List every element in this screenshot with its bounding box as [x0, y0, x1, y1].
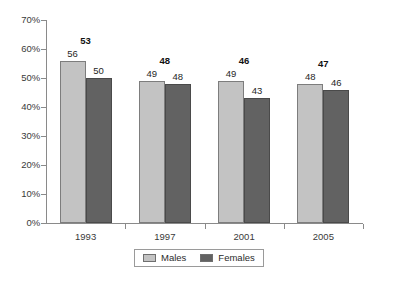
x-axis-label-2001: 2001: [205, 231, 284, 242]
group-total-label-2001: 46: [208, 56, 280, 66]
x-axis-label-1997: 1997: [125, 231, 204, 242]
x-axis-separator-tick: [284, 224, 285, 229]
legend-entry-males: Males: [143, 253, 186, 263]
y-axis-tick-label: 20%: [2, 160, 40, 170]
y-axis-tick-label: 0%: [2, 218, 40, 228]
plot-area: [46, 20, 363, 223]
bar-value-label-males-2001: 49: [213, 69, 249, 79]
legend-swatch-icon-males: [143, 254, 156, 262]
bar-males-2005: [297, 84, 323, 223]
bar-value-label-females-2005: 46: [318, 78, 354, 88]
bar-value-label-males-1993: 56: [55, 49, 91, 59]
y-axis-tick-label: 70%: [2, 15, 40, 25]
x-axis-label-2005: 2005: [284, 231, 363, 242]
y-axis-tick-label: 30%: [2, 131, 40, 141]
x-axis-separator-tick: [363, 224, 364, 229]
y-axis-tick-label: 10%: [2, 189, 40, 199]
x-axis-label-1993: 1993: [46, 231, 125, 242]
legend-label-females: Females: [218, 253, 254, 263]
bar-chart: 0%10%20%30%40%50%60%70% 1993199720012005…: [0, 0, 395, 283]
legend-label-males: Males: [161, 253, 186, 263]
y-axis-tick-label: 60%: [2, 44, 40, 54]
chart-legend: Males Females: [134, 249, 264, 267]
bar-females-2005: [323, 90, 349, 223]
bar-value-label-females-1993: 50: [81, 66, 117, 76]
group-total-label-1997: 48: [129, 56, 201, 66]
bar-females-1997: [165, 84, 191, 223]
group-total-label-1993: 53: [50, 36, 122, 46]
x-axis-separator-tick: [205, 224, 206, 229]
bar-males-1997: [139, 81, 165, 223]
legend-swatch-icon-females: [200, 254, 213, 262]
legend-entry-females: Females: [200, 253, 254, 263]
group-total-label-2005: 47: [287, 59, 359, 69]
bar-females-2001: [244, 98, 270, 223]
bar-value-label-females-2001: 43: [239, 86, 275, 96]
bar-value-label-females-1997: 48: [160, 72, 196, 82]
y-axis-tick-label: 50%: [2, 73, 40, 83]
bar-females-1993: [86, 78, 112, 223]
y-axis-tick-label: 40%: [2, 102, 40, 112]
bar-males-1993: [60, 61, 86, 223]
bar-males-2001: [218, 81, 244, 223]
x-axis-separator-tick: [125, 224, 126, 229]
